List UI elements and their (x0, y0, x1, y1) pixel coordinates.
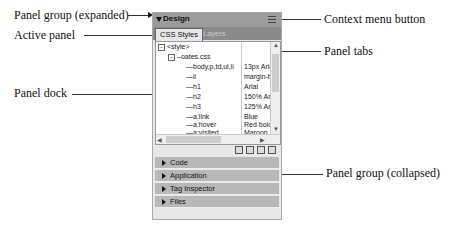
callout-panel-dock: Panel dock (14, 86, 67, 101)
panel-group-code[interactable]: Code (155, 157, 279, 169)
rule-value: margin-b (244, 73, 272, 80)
panel-toolbar (153, 144, 281, 156)
tab-css-styles[interactable]: CSS Styles (155, 28, 203, 41)
panel-group-tag-inspector[interactable]: Tag Inspector (155, 183, 279, 195)
tab-layers[interactable]: Layers (199, 28, 230, 40)
tree-root[interactable]: <style> (167, 43, 190, 50)
callout-panel-tabs: Panel tabs (324, 44, 373, 59)
rule-value: 150% Ar (244, 93, 270, 100)
panel-dock: Design CSS Styles Layers − <style> − –oa… (152, 12, 282, 220)
rule-row[interactable]: —li (186, 73, 196, 80)
rule-row[interactable]: —h2 (186, 93, 201, 100)
expand-triangle-icon (162, 199, 166, 205)
expand-triangle-icon (162, 186, 166, 192)
new-rule-icon[interactable] (246, 146, 254, 154)
leader-line (128, 15, 149, 16)
leader-line (280, 19, 321, 20)
scroll-thumb[interactable] (272, 54, 279, 92)
expand-triangle-icon (162, 173, 166, 179)
rule-row[interactable]: —a:link (186, 113, 209, 120)
tree-file[interactable]: –oates.css (177, 53, 210, 60)
expand-triangle-icon (162, 160, 166, 166)
scroll-right-icon[interactable]: ▶ (260, 136, 265, 143)
scroll-up-icon[interactable]: ▲ (273, 42, 279, 48)
rule-value: Blue (244, 113, 258, 120)
scroll-left-icon[interactable]: ◀ (157, 136, 162, 143)
rule-value: 13px Aria (244, 63, 273, 70)
panel-group-header-design[interactable]: Design (153, 13, 281, 27)
panel-tabs: CSS Styles Layers (153, 27, 281, 40)
delete-icon[interactable] (268, 146, 276, 154)
rule-value: Red bold (244, 121, 272, 128)
callout-active-panel: Active panel (14, 28, 75, 43)
leader-line (280, 174, 323, 175)
rule-value: Arial (244, 83, 258, 90)
callout-panel-group-expanded: Panel group (expanded) (14, 8, 129, 23)
leader-line (84, 35, 161, 36)
panel-group-application[interactable]: Application (155, 170, 279, 182)
options-menu-icon[interactable] (268, 16, 276, 24)
rule-value: 125% Ar (244, 103, 270, 110)
panel-group-files[interactable]: Files (155, 196, 279, 208)
callout-context-menu-button: Context menu button (324, 12, 425, 27)
rule-row[interactable]: —a:hover (186, 121, 216, 128)
scroll-thumb[interactable] (166, 136, 221, 143)
expand-triangle-icon[interactable] (156, 17, 162, 22)
column-divider[interactable] (241, 42, 242, 134)
attach-stylesheet-icon[interactable] (235, 146, 243, 154)
collapse-box-icon[interactable]: − (158, 44, 165, 51)
rule-row[interactable]: —h3 (186, 103, 201, 110)
edit-style-icon[interactable] (257, 146, 265, 154)
panel-group-title: Design (163, 14, 190, 23)
collapse-box-icon[interactable]: − (168, 54, 175, 61)
rule-row[interactable]: —body,p,td,ul,li (186, 63, 234, 70)
vertical-scrollbar[interactable]: ▲ ▼ (270, 42, 280, 134)
horizontal-scrollbar[interactable]: ◀ ▶ (156, 134, 280, 144)
callout-panel-group-collapsed: Panel group (collapsed) (326, 166, 440, 181)
rule-row[interactable]: —h1 (186, 83, 201, 90)
scroll-down-icon[interactable]: ▼ (273, 126, 279, 132)
css-rules-tree: − <style> − –oates.css —body,p,td,ul,li … (155, 41, 281, 145)
